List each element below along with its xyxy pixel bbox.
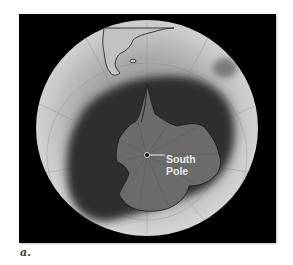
south-pole-label-line1: South (166, 153, 206, 165)
ozone-low-patch (213, 58, 237, 78)
ozone-hole-figure: South Pole (19, 14, 276, 243)
south-pole-label: South Pole (166, 153, 206, 177)
south-pole-marker (145, 153, 150, 158)
falkland-islands (130, 59, 136, 63)
globe-illustration (19, 14, 276, 243)
south-pole-label-line2: Pole (166, 165, 206, 177)
figure-caption: a. (20, 246, 31, 259)
